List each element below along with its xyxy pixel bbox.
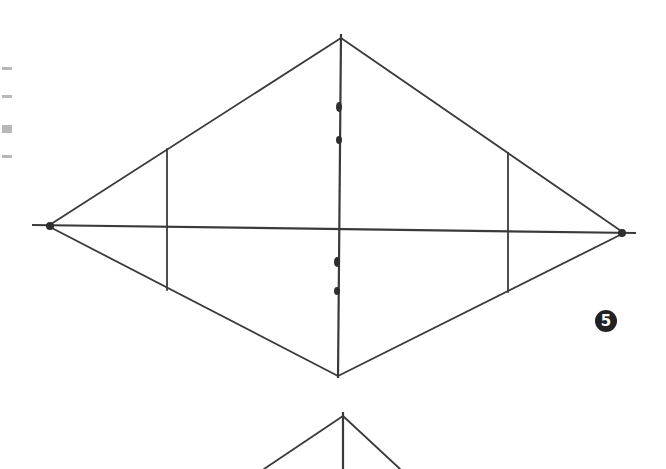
horizontal-axis [32, 225, 636, 233]
vertical-axis [338, 34, 341, 378]
vertex-dot-left [46, 222, 54, 230]
axis-dot [334, 257, 340, 267]
axis-dot [336, 136, 342, 144]
axis-dot [336, 102, 342, 112]
next-figure-partial [264, 412, 400, 469]
rhombus-edge-top-left [48, 38, 341, 226]
step-number-badge: 5 [595, 310, 617, 332]
next-figure-edge-left [264, 416, 343, 469]
axis-dot [334, 287, 340, 295]
rhombus-construction-diagram [0, 0, 666, 469]
rhombus-edge-bottom-left [48, 226, 338, 376]
vertex-dot-right [618, 229, 626, 237]
next-figure-edge-right [343, 416, 400, 469]
rhombus-outline [48, 38, 624, 376]
rhombus-edge-bottom-right [338, 233, 624, 376]
rhombus-edge-top-right [341, 38, 624, 233]
